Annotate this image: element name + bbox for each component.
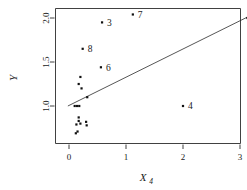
- x-tick-label: 1: [124, 152, 129, 162]
- data-point: [86, 124, 88, 126]
- x-axis-tick-marks: [69, 145, 240, 150]
- plot-frame: [56, 9, 241, 144]
- data-point: [101, 21, 103, 23]
- y-axis-title: Y: [7, 73, 19, 81]
- y-tick-label: 2.0: [41, 12, 51, 24]
- y-tick-label: 1.5: [41, 56, 51, 68]
- y-axis-tick-marks: [50, 18, 55, 106]
- x-tick-label: 0: [67, 152, 72, 162]
- x-axis-title-subscript: 4: [149, 177, 153, 186]
- data-point: [75, 123, 77, 125]
- x-axis-tick-labels: 0123: [67, 152, 243, 162]
- plot-frame-border: [56, 9, 241, 144]
- data-point: [76, 105, 78, 107]
- data-point: [78, 120, 80, 122]
- data-point: [78, 83, 80, 85]
- data-point: [78, 116, 80, 118]
- x-tick-label: 2: [181, 152, 186, 162]
- plot-canvas: 0123 1.01.52.0 735864 Y X 4: [0, 0, 247, 190]
- data-point: [86, 96, 88, 98]
- y-tick-label: 1.0: [41, 100, 51, 112]
- data-point: [182, 105, 184, 107]
- data-point-label: 6: [106, 63, 111, 73]
- data-point-label: 7: [138, 10, 143, 20]
- data-point: [78, 105, 80, 107]
- scatter-plot-figure: 0123 1.01.52.0 735864 Y X 4: [0, 0, 247, 190]
- data-point: [246, 17, 247, 19]
- x-axis-title-group: X 4: [139, 171, 153, 186]
- data-point: [85, 121, 87, 123]
- data-point: [79, 76, 81, 78]
- x-tick-label: 3: [238, 152, 243, 162]
- data-point: [132, 13, 134, 15]
- data-point: [79, 123, 81, 125]
- data-point: [100, 66, 102, 68]
- regression-line-group: [68, 16, 247, 106]
- data-point: [75, 132, 77, 134]
- data-point: [74, 105, 76, 107]
- regression-line: [68, 16, 247, 106]
- x-axis-title: X: [139, 171, 148, 183]
- data-point: [82, 48, 84, 50]
- data-point-label: 4: [188, 101, 193, 111]
- data-point-label: 3: [107, 18, 112, 28]
- data-point-labels: 735864: [88, 10, 247, 112]
- y-axis-title-group: Y: [7, 73, 19, 81]
- data-point-label: 8: [88, 44, 93, 54]
- data-point: [80, 87, 82, 89]
- y-axis-tick-labels: 1.01.52.0: [41, 12, 51, 112]
- data-point-markers: [74, 13, 247, 134]
